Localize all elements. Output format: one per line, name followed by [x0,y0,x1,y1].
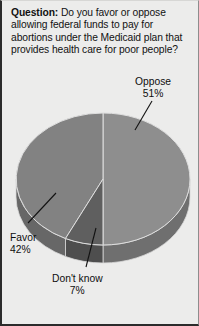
slice-label-oppose-pct: 51% [135,88,171,100]
poll-card: Question: Do you favor or oppose allowin… [0,0,199,326]
slice-label-favor-name: Favor [10,232,36,243]
slice-label-oppose-name: Oppose [135,76,171,87]
slice-label-favor: Favor 42% [10,232,36,255]
slice-label-dontknow-pct: 7% [52,285,103,297]
slice-label-oppose: Oppose 51% [135,76,171,99]
slice-label-favor-pct: 42% [10,244,36,256]
slice-label-dontknow: Don't know 7% [52,273,103,296]
slice-label-dontknow-name: Don't know [52,273,103,284]
